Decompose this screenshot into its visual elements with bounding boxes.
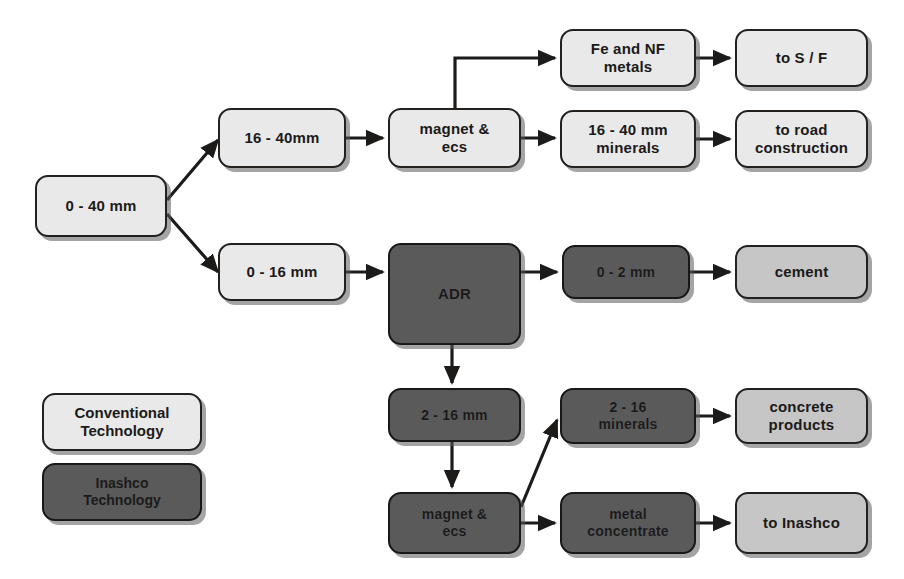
node-frac_2_16[interactable]: 2 - 16 mm [388,388,521,442]
legend-conventional: ConventionalTechnology [42,393,202,451]
node-magnet_ecs_bot[interactable]: magnet &ecs [388,492,521,554]
node-to_sf[interactable]: to S / F [735,29,868,87]
node-frac_0_16[interactable]: 0 - 16 mm [218,243,346,301]
node-feed[interactable]: 0 - 40 mm [35,175,167,237]
node-label: to S / F [770,49,834,67]
node-magnet_ecs_top[interactable]: magnet &ecs [388,108,521,168]
connector-magnet-bot-to-min-2-16 [521,420,557,507]
node-label: metalconcentrate [581,506,675,539]
node-frac_0_2[interactable]: 0 - 2 mm [562,245,690,299]
node-label: 16 - 40mm [238,129,325,147]
connector-feed-to-16-40 [167,140,218,200]
node-label: 0 - 40 mm [60,197,143,215]
node-min_16_40[interactable]: 16 - 40 mmminerals [560,110,696,168]
flowchart-canvas: 0 - 40 mm16 - 40mmmagnet &ecsFe and NFme… [0,0,904,579]
node-to_inashco[interactable]: to Inashco [735,492,868,554]
node-to_road[interactable]: to roadconstruction [735,110,868,168]
node-metal_conc[interactable]: metalconcentrate [560,492,696,554]
node-min_2_16[interactable]: 2 - 16minerals [560,388,696,444]
node-label: 2 - 16minerals [592,399,663,432]
node-label: magnet &ecs [414,120,496,155]
legend-label: ConventionalTechnology [74,404,169,440]
node-label: 0 - 16 mm [241,263,324,281]
node-label: concreteproducts [763,398,841,433]
node-label: 16 - 40 mmminerals [582,121,674,156]
node-label: ADR [432,285,477,303]
node-label: Fe and NFmetals [585,40,671,75]
node-frac_16_40[interactable]: 16 - 40mm [218,108,346,168]
node-cement[interactable]: cement [735,245,868,299]
legend-inashco: InashcoTechnology [42,463,202,521]
connector-feed-to-0-16 [167,214,218,272]
connector-magnet-to-fe-nf [455,58,555,108]
node-label: to roadconstruction [749,121,854,156]
node-label: 0 - 2 mm [591,264,661,281]
node-concrete[interactable]: concreteproducts [735,388,868,444]
node-fe_nf_metals[interactable]: Fe and NFmetals [560,29,696,87]
legend-label: InashcoTechnology [83,475,161,509]
node-label: to Inashco [757,514,846,532]
node-label: 2 - 16 mm [415,407,493,424]
node-label: magnet &ecs [416,506,493,539]
node-label: cement [769,263,835,281]
node-adr[interactable]: ADR [388,243,521,345]
